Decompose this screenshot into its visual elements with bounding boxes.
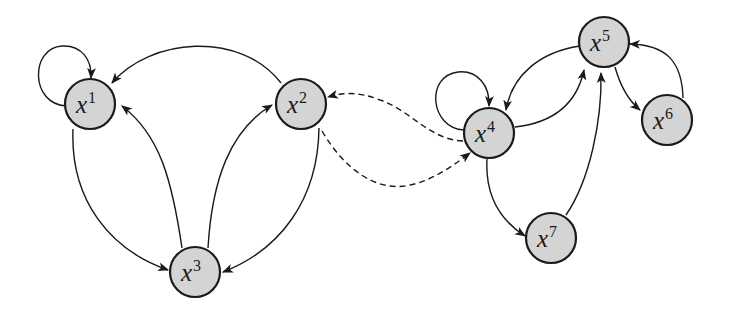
edge-x1-to-x3: [73, 129, 168, 270]
edge-x5-to-x4: [506, 46, 580, 110]
edges-dashed-bridge: [322, 94, 470, 187]
edge-x3-to-x1: [122, 106, 182, 248]
node-x4: x4: [464, 108, 514, 158]
node-x1: x1: [65, 79, 115, 129]
edge-x4-to-x2: [328, 94, 463, 141]
nodes: x1 x2 x3 x4 x5 x6 x7: [65, 17, 692, 297]
node-x6: x6: [642, 95, 692, 145]
edge-x2-to-x1: [112, 46, 281, 83]
edge-x2-to-x4: [322, 131, 470, 187]
edge-x4-to-x7: [487, 159, 525, 236]
edge-x4-to-x5: [515, 70, 584, 127]
node-x2: x2: [276, 79, 326, 129]
node-x5: x5: [579, 17, 629, 67]
edge-x7-to-x5: [566, 73, 601, 215]
node-x3: x3: [170, 247, 220, 297]
edge-x5-to-x6: [615, 67, 640, 110]
edge-x6-to-x5: [630, 44, 683, 98]
edge-x3-to-x2: [208, 105, 272, 248]
directed-graph-diagram: x1 x2 x3 x4 x5 x6 x7: [0, 0, 729, 310]
edge-x2-to-x3: [223, 128, 319, 272]
node-x7: x7: [526, 213, 576, 263]
